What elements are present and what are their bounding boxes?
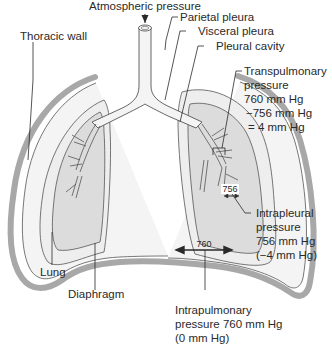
svg-text:Intrapleural: Intrapleural <box>256 207 314 219</box>
leader-thoracic-wall <box>28 42 33 160</box>
label-diaphragm: Diaphragm <box>68 288 124 300</box>
label-pleural-cavity: Pleural cavity <box>216 40 285 52</box>
svg-text:756 mm Hg: 756 mm Hg <box>256 235 315 247</box>
svg-text:−756 mm Hg: −756 mm Hg <box>246 107 312 119</box>
svg-text:(−4 mm Hg): (−4 mm Hg) <box>256 249 317 261</box>
label-lung: Lung <box>40 266 66 278</box>
leader-parietal-pleura <box>165 17 178 50</box>
label-intrapulmonary-pressure: Intrapulmonary pressure 760 mm Hg (0 mm … <box>175 304 282 344</box>
value-760: 760 <box>196 239 211 249</box>
label-parietal-pleura: Parietal pleura <box>180 11 255 23</box>
svg-text:pressure 760 mm Hg: pressure 760 mm Hg <box>175 318 282 330</box>
svg-text:760 mm Hg: 760 mm Hg <box>244 93 303 105</box>
label-visceral-pleura: Visceral pleura <box>198 25 274 37</box>
svg-text:pressure: pressure <box>244 79 289 91</box>
label-transpulmonary-pressure: Transpulmonary pressure 760 mm Hg −756 m… <box>244 65 327 133</box>
svg-text:Intrapulmonary: Intrapulmonary <box>175 304 252 316</box>
label-thoracic-wall: Thoracic wall <box>20 30 87 42</box>
thorax-diagram: Atmospheric pressure Thoracic wall Parie… <box>0 0 332 351</box>
svg-text:(0 mm Hg): (0 mm Hg) <box>175 332 229 344</box>
down-arrow-icon <box>142 15 149 23</box>
svg-text:Transpulmonary: Transpulmonary <box>244 65 327 77</box>
value-756: 756 <box>222 184 237 194</box>
svg-text:= 4 mm Hg: = 4 mm Hg <box>248 121 305 133</box>
svg-text:pressure: pressure <box>256 221 301 233</box>
